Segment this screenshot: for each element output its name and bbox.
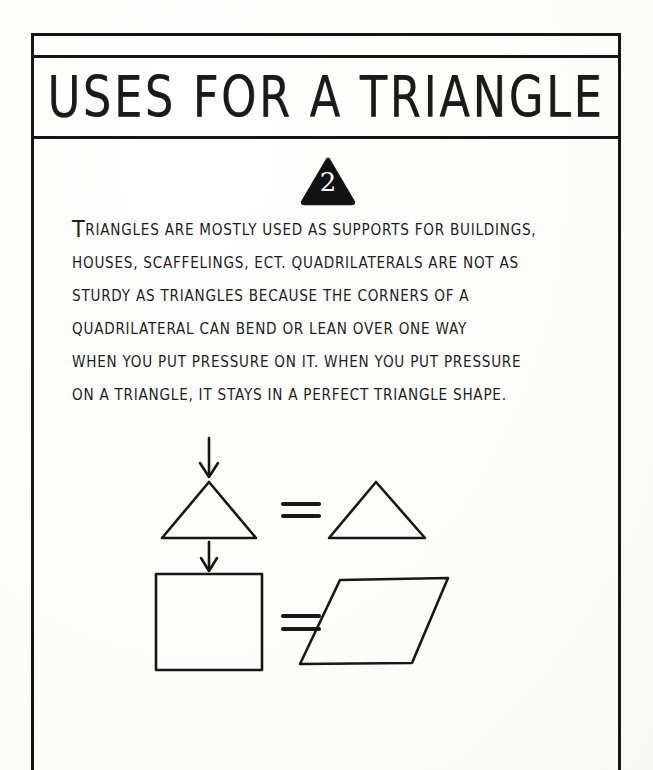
body-paragraph: TRIANGLES ARE MOSTLY USED AS SUPPORTS FO… bbox=[72, 214, 602, 412]
body-line-3: STURDY AS TRIANGLES BECAUSE THE CORNERS … bbox=[72, 278, 602, 314]
equals-sign-top bbox=[283, 504, 319, 516]
body-line-2: HOUSES, SCAFFELINGS, ECT. QUADRILATERALS… bbox=[72, 245, 602, 281]
title-bottom-rule bbox=[31, 136, 621, 139]
page-number-badge: 2 bbox=[298, 155, 358, 209]
body-line-5: WHEN YOU PUT PRESSURE ON IT. WHEN YOU PU… bbox=[72, 344, 602, 380]
parallelogram-shape bbox=[300, 578, 448, 664]
triangle-shape-left bbox=[162, 482, 256, 538]
equals-sign-bottom bbox=[283, 616, 319, 629]
square-shape bbox=[156, 574, 262, 670]
drop-cap: T bbox=[72, 216, 85, 242]
down-arrow-icon-top bbox=[200, 438, 218, 477]
frame-top-rule bbox=[31, 33, 621, 36]
frame-left-rule bbox=[31, 33, 34, 770]
pressure-diagram bbox=[120, 430, 460, 680]
down-arrow-icon-bottom bbox=[201, 542, 217, 571]
triangle-shape-right bbox=[329, 482, 425, 538]
body-line-1: TRIANGLES ARE MOSTLY USED AS SUPPORTS FO… bbox=[72, 212, 602, 248]
triangle-badge-icon bbox=[298, 155, 358, 209]
body-line-6: ON A TRIANGLE, IT STAYS IN A PERFECT TRI… bbox=[72, 377, 602, 413]
body-line-1-text: RIANGLES ARE MOSTLY USED AS SUPPORTS FOR… bbox=[85, 221, 536, 239]
title-banner: USES FOR A TRIANGLE bbox=[34, 58, 618, 136]
frame-right-rule bbox=[618, 33, 621, 770]
page-title: USES FOR A TRIANGLE bbox=[47, 63, 604, 131]
body-line-4: QUADRILATERAL CAN BEND OR LEAN OVER ONE … bbox=[72, 311, 602, 347]
